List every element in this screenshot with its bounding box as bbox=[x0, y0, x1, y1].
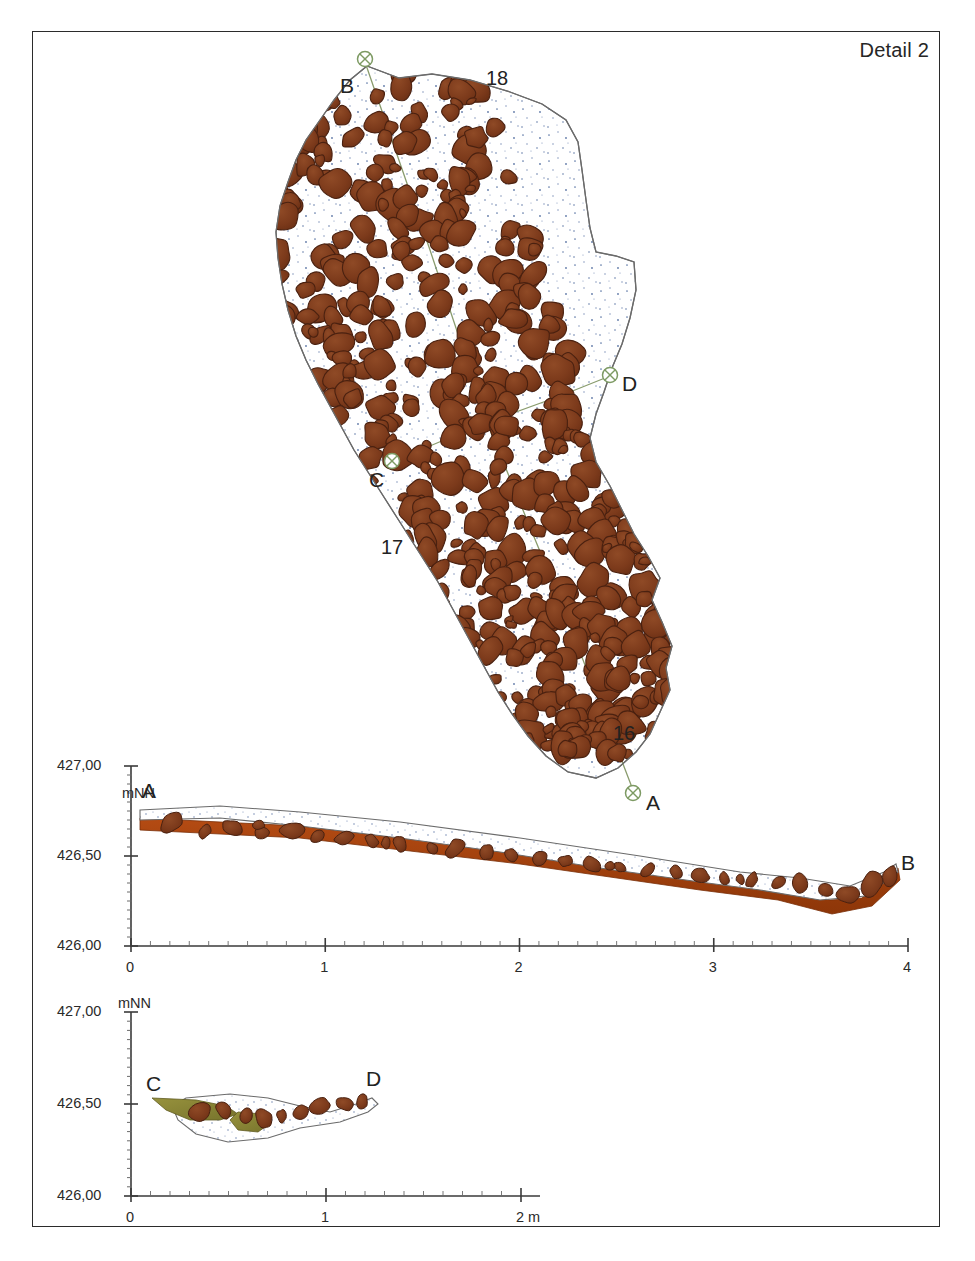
plan-stone bbox=[546, 706, 556, 717]
profile-ab-stone bbox=[480, 845, 494, 860]
plan-stone bbox=[630, 673, 640, 683]
survey-marker-a-icon bbox=[626, 786, 641, 801]
plan-stone bbox=[641, 671, 656, 686]
profile-c-d-x-tick-0: 0 bbox=[126, 1210, 134, 1225]
plan-stone bbox=[269, 202, 298, 230]
plan-stone bbox=[391, 69, 412, 101]
plan-stone bbox=[672, 726, 693, 746]
plan-stone bbox=[282, 145, 296, 161]
profile-ab-stone bbox=[393, 837, 406, 853]
plan-stone bbox=[403, 399, 420, 417]
profile-cd-x-ticks bbox=[131, 1188, 521, 1202]
plan-stone bbox=[254, 141, 269, 158]
plan-stone bbox=[265, 260, 278, 274]
plan-stone bbox=[604, 451, 616, 459]
plan-stone bbox=[284, 129, 296, 137]
plan-stone bbox=[265, 107, 287, 134]
plan-stone bbox=[302, 110, 313, 126]
profile-a-b-x-tick-4: 4 bbox=[903, 960, 911, 975]
plan-stone bbox=[641, 609, 672, 638]
survey-marker-c-icon bbox=[385, 454, 400, 469]
plan-stone bbox=[477, 586, 486, 595]
plan-stone bbox=[272, 167, 280, 174]
plan-stone bbox=[653, 745, 672, 764]
profile-a-b-x-tick-0: 0 bbox=[126, 960, 134, 975]
plan-point-label-c: C bbox=[369, 469, 384, 490]
plan-stone bbox=[636, 756, 650, 768]
plan-stone bbox=[253, 183, 264, 194]
plan-stone bbox=[456, 502, 467, 513]
profile-c-d bbox=[124, 1012, 540, 1202]
plan-stone bbox=[558, 740, 577, 757]
profile-c-d-x-tick-2: 2 m bbox=[516, 1210, 540, 1225]
profile-a-b-y-tick-0: 427,00 bbox=[57, 758, 101, 773]
profile-a-b-x-tick-2: 2 bbox=[515, 960, 523, 975]
profile-ab-stone bbox=[253, 820, 265, 829]
plan-stone bbox=[506, 621, 517, 628]
drawing-sheet: Detail 2 bbox=[0, 0, 975, 1261]
plan-stone bbox=[252, 200, 276, 225]
profile-cd-label-c: C bbox=[146, 1073, 161, 1094]
plan-context-label-16: 16 bbox=[613, 723, 635, 743]
profile-a-b-x-tick-1: 1 bbox=[320, 960, 328, 975]
plan-stone bbox=[308, 327, 318, 337]
profile-a-b-y-tick-1: 426,50 bbox=[57, 848, 101, 863]
plan-stone bbox=[484, 318, 493, 331]
plan-point-label-a: A bbox=[646, 792, 660, 813]
profile-a-b-x-tick-3: 3 bbox=[709, 960, 717, 975]
plan-stone bbox=[273, 111, 281, 120]
plan-stone bbox=[355, 332, 366, 343]
plan-stone bbox=[269, 126, 293, 151]
profile-ab-stone bbox=[605, 861, 615, 870]
plan-stone bbox=[270, 179, 286, 196]
profile-ab-x-ticks bbox=[131, 938, 908, 952]
survey-marker-d-icon bbox=[603, 368, 618, 383]
plan-stone bbox=[378, 130, 392, 147]
profile-a-b bbox=[124, 766, 908, 952]
plan-stone bbox=[386, 380, 396, 391]
plan-stone bbox=[663, 727, 675, 740]
plan-stone bbox=[669, 740, 681, 752]
plan-stone bbox=[637, 752, 656, 771]
survey-marker-b-icon bbox=[358, 52, 373, 67]
profile-cd-stone bbox=[357, 1094, 368, 1109]
plan-stone bbox=[419, 60, 435, 73]
plan-stone bbox=[259, 188, 278, 205]
profile-ab-basal-layer bbox=[140, 818, 900, 914]
plan-stone bbox=[288, 113, 307, 129]
plan-stone bbox=[496, 239, 514, 256]
plan-point-label-d: D bbox=[622, 373, 637, 394]
profile-ab-stone bbox=[882, 866, 897, 887]
plan-stone bbox=[494, 416, 518, 436]
profile-ab-label-a: A bbox=[142, 780, 156, 801]
profile-c-d-y-tick-0: 427,00 bbox=[57, 1004, 101, 1019]
profile-c-d-y-tick-2: 426,00 bbox=[57, 1188, 101, 1203]
plan-stone bbox=[593, 426, 618, 447]
profile-cd-y-ticks bbox=[124, 1012, 138, 1196]
plan-point-label-b: B bbox=[340, 75, 354, 96]
plan-stone bbox=[671, 719, 682, 729]
profile-ab-matrix bbox=[140, 806, 898, 900]
plan-stone bbox=[590, 633, 600, 643]
profile-cd-unit-label: mNN bbox=[118, 996, 151, 1011]
profile-c-d-y-tick-1: 426,50 bbox=[57, 1096, 101, 1111]
plan-stone bbox=[529, 243, 541, 256]
profile-cd-label-d: D bbox=[366, 1068, 381, 1089]
plan-stone bbox=[327, 426, 338, 438]
plan-context-label-17: 17 bbox=[381, 537, 403, 557]
profile-c-d-x-tick-1: 1 bbox=[321, 1210, 329, 1225]
plan-stone bbox=[651, 747, 661, 758]
plan-context-label-18: 18 bbox=[486, 68, 508, 88]
profile-ab-stone bbox=[819, 883, 833, 896]
plan-stone bbox=[479, 597, 503, 620]
profile-ab-stone bbox=[792, 873, 807, 894]
plan-view bbox=[252, 60, 694, 790]
profile-ab-label-b: B bbox=[901, 852, 915, 873]
profile-a-b-y-tick-2: 426,00 bbox=[57, 938, 101, 953]
plan-stone bbox=[661, 732, 688, 763]
